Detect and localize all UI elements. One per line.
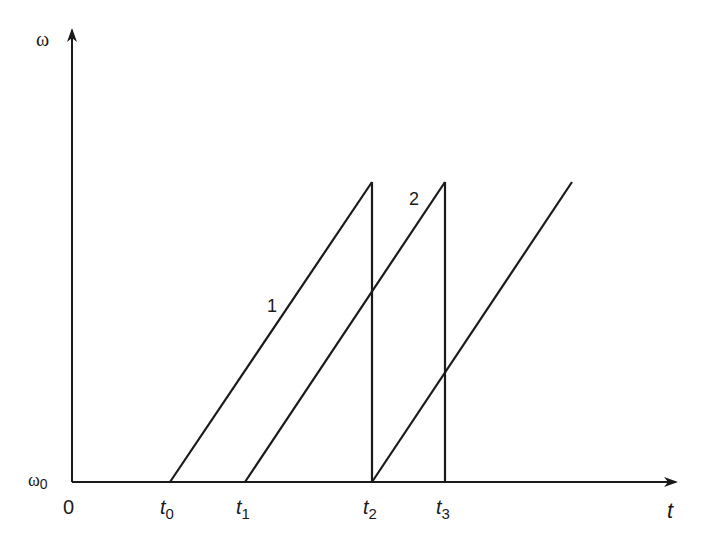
curve-1-repeat-ramp <box>372 182 572 482</box>
tick-t1: t1 <box>236 496 250 522</box>
curve-1-label: 1 <box>267 296 277 316</box>
tick-t3: t3 <box>436 496 450 522</box>
x-origin-label: 0 <box>63 496 74 518</box>
y-origin-label: ω0 <box>28 470 48 492</box>
curve-1-ramp <box>170 182 372 482</box>
sawtooth-diagram: ω ω0 0 t0 t1 t2 t3 t 1 2 <box>0 0 706 542</box>
tick-t0: t0 <box>160 496 174 522</box>
curve-2-label: 2 <box>409 189 419 209</box>
x-axis-label: t <box>667 498 674 523</box>
y-axis-label: ω <box>36 28 49 50</box>
curve-2-ramp <box>245 182 445 482</box>
tick-t2: t2 <box>363 496 377 522</box>
